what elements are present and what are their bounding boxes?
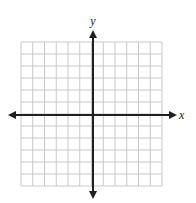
x-axis-right-arrowhead [169,111,177,119]
y-axis-label: y [86,15,100,27]
coordinate-grid-graphic [0,0,196,203]
y-axis-up-arrowhead [89,30,97,38]
coordinate-plane-figure: y x [0,0,196,203]
y-axis-down-arrowhead [89,191,97,199]
x-axis-left-arrowhead [8,111,16,119]
x-axis-label: x [179,109,193,121]
